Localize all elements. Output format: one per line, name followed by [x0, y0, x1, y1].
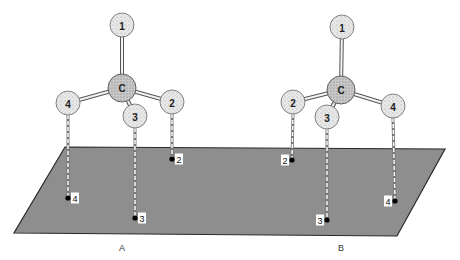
atom-3-label: 3	[324, 113, 330, 124]
projection-point	[324, 217, 329, 222]
panel-label-A: A	[119, 243, 125, 253]
atom-4-label: 4	[65, 99, 71, 110]
panel-label-B: B	[338, 243, 344, 253]
projection-plane	[14, 147, 445, 236]
projection-point	[289, 157, 294, 162]
atom-1-label: 1	[119, 21, 125, 32]
projection-point	[65, 195, 70, 200]
atom-4-label: 4	[390, 102, 396, 113]
projection-point	[169, 156, 174, 161]
atom-2-label: 2	[290, 98, 296, 109]
carbon-atom-label: C	[337, 85, 344, 96]
projection-label: 3	[317, 216, 322, 226]
projection-point	[392, 198, 397, 203]
atom-3-label: 3	[132, 112, 138, 123]
tetrahedral-projection-diagram: 124C3124C3 234A234B	[0, 0, 460, 260]
projection-point	[132, 215, 137, 220]
projection-label: 4	[72, 194, 77, 204]
projection-label: 2	[282, 156, 287, 166]
projection-label: 4	[385, 197, 390, 207]
projection-label: 2	[176, 155, 181, 165]
atom-1-label: 1	[339, 23, 345, 34]
atom-2-label: 2	[169, 98, 175, 109]
projection-label: 3	[139, 214, 144, 224]
carbon-atom-label: C	[118, 83, 125, 94]
